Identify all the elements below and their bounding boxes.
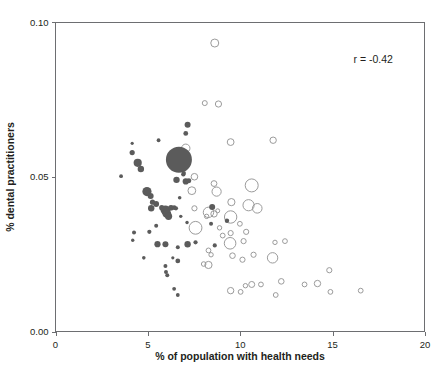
data-point-open: [327, 268, 332, 273]
data-point-open: [252, 204, 262, 214]
data-point-filled: [213, 243, 217, 247]
data-point-filled: [163, 264, 167, 268]
y-axis-ticks: 0.000.050.10: [30, 17, 56, 338]
data-point-open: [358, 288, 363, 293]
data-points-layer: [119, 39, 363, 297]
data-point-filled: [173, 177, 179, 183]
data-point-filled: [131, 238, 134, 241]
data-point-filled: [162, 241, 168, 247]
data-point-open: [245, 179, 258, 192]
data-point-open: [202, 101, 207, 106]
data-point-open: [228, 230, 233, 235]
data-point-filled: [209, 204, 215, 210]
data-point-filled: [183, 131, 188, 136]
x-tick-label: 0: [53, 339, 58, 350]
data-point-open: [244, 229, 249, 234]
data-point-open: [217, 226, 221, 230]
y-tick-label: 0.05: [30, 171, 49, 182]
data-point-filled: [225, 218, 229, 222]
data-point-open: [209, 253, 213, 257]
data-point-filled: [174, 206, 178, 210]
data-point-open: [273, 240, 277, 244]
data-point-filled: [193, 240, 197, 244]
x-axis-ticks: 05101520: [53, 332, 430, 350]
data-point-filled: [119, 174, 123, 178]
data-point-filled: [175, 259, 180, 264]
data-point-filled: [184, 241, 190, 247]
data-point-open: [270, 137, 276, 143]
data-point-open: [240, 257, 245, 262]
data-point-filled: [147, 230, 151, 234]
data-point-open: [228, 199, 235, 206]
x-tick-label: 5: [145, 339, 150, 350]
data-point-filled: [172, 287, 176, 291]
data-point-open: [328, 289, 333, 294]
data-point-filled: [185, 122, 191, 128]
data-point-open: [273, 293, 278, 298]
data-point-open: [251, 252, 256, 257]
data-point-open: [192, 206, 197, 211]
data-point-open: [211, 39, 219, 47]
data-point-filled: [165, 273, 169, 277]
data-point-filled: [165, 213, 172, 220]
data-point-open: [191, 173, 198, 180]
data-point-filled: [130, 150, 135, 155]
x-tick-label: 15: [327, 339, 338, 350]
data-point-open: [243, 283, 247, 287]
x-axis-title: % of population with health needs: [155, 350, 325, 362]
data-point-filled: [138, 166, 144, 172]
data-point-open: [212, 187, 221, 196]
data-point-filled: [154, 224, 158, 228]
data-point-open: [314, 280, 320, 286]
y-tick-label: 0.10: [30, 17, 49, 28]
data-point-open: [224, 237, 236, 249]
data-point-open: [211, 181, 217, 187]
data-point-filled: [153, 201, 159, 207]
data-point-open: [206, 248, 211, 253]
y-axis-title: % dental practitioners: [4, 122, 16, 232]
data-point-filled: [148, 193, 154, 199]
data-point-open: [227, 139, 234, 146]
data-point-open: [278, 279, 284, 285]
correlation-annotation: r = -0.42: [354, 53, 394, 65]
data-point-filled: [209, 222, 213, 226]
data-point-open: [241, 239, 246, 244]
data-point-filled: [154, 241, 160, 247]
y-tick-label: 0.00: [30, 326, 49, 337]
data-point-open: [302, 282, 307, 287]
data-point-open: [238, 289, 243, 294]
data-point-filled: [176, 293, 180, 297]
data-point-open: [188, 187, 196, 195]
data-point-filled: [176, 245, 180, 249]
x-tick-label: 20: [420, 339, 431, 350]
data-point-filled: [142, 256, 146, 260]
data-point-open: [227, 287, 233, 293]
data-point-filled: [185, 221, 188, 224]
data-point-filled: [131, 142, 134, 145]
data-point-filled: [157, 138, 161, 142]
chart-canvas: 0.000.050.10 05101520 r = -0.42 % of pop…: [0, 0, 445, 381]
data-point-open: [267, 253, 277, 263]
data-point-open: [220, 233, 225, 238]
scatter-chart-figure: 0.000.050.10 05101520 r = -0.42 % of pop…: [0, 0, 445, 381]
data-point-open: [189, 221, 202, 234]
axes-group: [55, 22, 425, 332]
data-point-open: [216, 209, 220, 213]
data-point-filled: [132, 230, 136, 234]
data-point-filled: [178, 196, 182, 200]
data-point-open: [215, 101, 221, 107]
data-point-open: [249, 281, 255, 287]
data-point-filled: [134, 159, 142, 167]
data-point-filled: [186, 178, 191, 183]
x-tick-label: 10: [235, 339, 246, 350]
data-point-filled: [166, 147, 192, 173]
data-point-open: [259, 282, 264, 287]
data-point-open: [283, 239, 288, 244]
data-point-open: [230, 253, 236, 259]
data-point-filled: [179, 215, 182, 218]
data-point-filled: [182, 171, 186, 175]
data-point-filled: [148, 205, 154, 211]
data-point-filled: [171, 256, 174, 259]
data-point-open: [237, 221, 242, 226]
